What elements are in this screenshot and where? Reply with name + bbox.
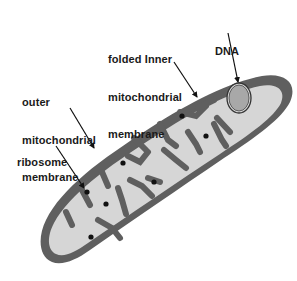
ribosome-dot (203, 133, 208, 138)
label-ribosome: ribosome (17, 131, 67, 194)
label-inner-membrane: folded Inner mitochondrial membrane (108, 28, 182, 166)
ribosome-dot (88, 234, 93, 239)
label-line: DNA (215, 45, 239, 58)
ribosome-dot (103, 201, 108, 206)
label-line: ribosome (17, 156, 67, 169)
dna-nucleoid (227, 83, 251, 113)
label-line: membrane (108, 128, 182, 141)
ribosome-dot (151, 179, 156, 184)
label-line: outer (22, 96, 96, 109)
label-line: mitochondrial (108, 91, 182, 104)
mitochondrion-diagram: folded Inner mitochondrial membrane DNA … (0, 0, 297, 281)
label-line: folded Inner (108, 53, 182, 66)
label-dna: DNA (215, 20, 239, 83)
